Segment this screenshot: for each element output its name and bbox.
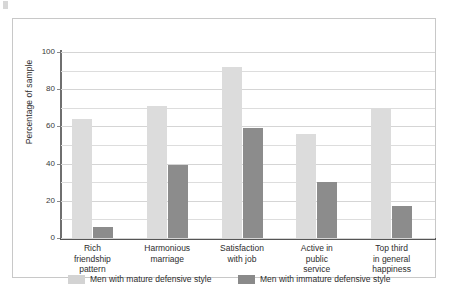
bar-mature[interactable] (296, 134, 316, 238)
legend-swatch-mature (68, 275, 85, 284)
bar-mature[interactable] (72, 119, 92, 238)
bar-immature[interactable] (93, 227, 113, 238)
bar-immature[interactable] (168, 165, 188, 238)
legend-entry[interactable]: Men with mature defensive style (68, 275, 211, 284)
y-tick-label-100: 100 (42, 48, 55, 56)
y-tick-label-60: 60 (46, 122, 55, 130)
y-tick-label-20: 20 (46, 197, 55, 205)
bar-group (222, 52, 263, 238)
y-axis-tick-labels: 020406080100 (27, 19, 55, 279)
category-label: Active in public service (279, 243, 354, 275)
gridline-0 (61, 238, 435, 239)
legend-swatch-immature (238, 275, 255, 284)
legend-entry[interactable]: Men with immature defensive style (238, 275, 390, 284)
bar-mature[interactable] (371, 108, 391, 238)
category-label: Satisfaction with job (205, 243, 280, 264)
category-label: Harmonious marriage (130, 243, 205, 264)
category-label: Top third in general happiness (354, 243, 429, 275)
bar-mature[interactable] (222, 67, 242, 238)
chart-legend: Men with mature defensive styleMen with … (61, 275, 435, 286)
bar-immature[interactable] (392, 206, 412, 238)
category-label: Rich friendship pattern (55, 243, 130, 275)
y-tick-label-0: 0 (51, 234, 55, 242)
bar-group (147, 52, 188, 238)
y-tick-label-80: 80 (46, 85, 55, 93)
bar-group (371, 52, 412, 238)
bar-immature[interactable] (243, 128, 263, 238)
bar-group (296, 52, 337, 238)
y-tick-label-40: 40 (46, 160, 55, 168)
legend-label: Men with mature defensive style (90, 275, 211, 284)
scan-artifact (3, 1, 8, 9)
chart-frame: Percentage of sample 020406080100 Rich f… (12, 18, 436, 278)
bar-group (72, 52, 113, 238)
bar-mature[interactable] (147, 106, 167, 238)
bar-immature[interactable] (317, 182, 337, 238)
figure-container: Percentage of sample 020406080100 Rich f… (0, 0, 449, 286)
plot-area (61, 52, 435, 238)
legend-label: Men with immature defensive style (260, 275, 390, 284)
